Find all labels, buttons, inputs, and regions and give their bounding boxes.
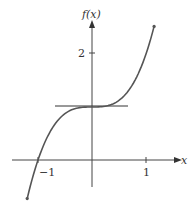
x-tick-label-1: 1 [143, 166, 150, 179]
x-axis-label: x [181, 154, 188, 167]
y-tick-label-2: 2 [78, 47, 85, 60]
x-tick-label-neg1: −1 [39, 166, 55, 179]
y-axis-label: f(x) [81, 8, 101, 21]
function-plot: x f(x) 1 −1 2 [0, 0, 196, 202]
